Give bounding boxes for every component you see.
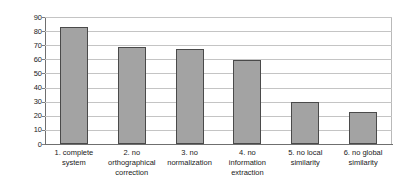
gridline: [45, 73, 392, 74]
y-axis-tick-mark: [42, 116, 45, 117]
y-axis-tick-label: 30: [22, 97, 42, 106]
gridline: [45, 59, 392, 60]
x-axis-category-label-line: 4. no: [216, 148, 280, 158]
x-axis-category-label: 3. nonormalization: [158, 148, 222, 168]
y-axis-tick-mark: [42, 59, 45, 60]
x-axis-category-label: 4. noinformationextraction: [216, 148, 280, 178]
gridline: [45, 102, 392, 103]
x-axis-category-label-line: 2. no: [100, 148, 164, 158]
x-axis-category-label-line: 5. no local: [273, 148, 337, 158]
y-axis-tick-label: 10: [22, 125, 42, 134]
x-axis-category-label-line: correction: [100, 168, 164, 178]
x-axis-category-label-line: normalization: [158, 158, 222, 168]
y-axis-tick-mark: [42, 73, 45, 74]
x-axis-category-label-line: orthographical: [100, 158, 164, 168]
gridline: [45, 17, 392, 18]
y-axis-tick-label: 0: [22, 140, 42, 149]
y-axis-tick-labels: 9080706050403020100: [22, 0, 42, 192]
y-axis-title: Correct (%): [0, 0, 14, 45]
x-axis-category-label-line: extraction: [216, 168, 280, 178]
x-axis-category-label-line: similarity: [331, 158, 395, 168]
bar: [176, 49, 204, 144]
gridline: [45, 130, 392, 131]
y-axis-tick-label: 40: [22, 83, 42, 92]
y-axis-tick-label: 80: [22, 27, 42, 36]
y-axis-tick-mark: [42, 17, 45, 18]
y-axis-tick-label: 60: [22, 55, 42, 64]
bar: [60, 27, 88, 144]
gridline: [45, 88, 392, 89]
y-axis-tick-label: 50: [22, 69, 42, 78]
y-axis-tick-mark: [42, 130, 45, 131]
x-axis-category-label: 5. no localsimilarity: [273, 148, 337, 168]
y-axis-tick-mark: [42, 102, 45, 103]
gridline: [45, 116, 392, 117]
bar: [233, 60, 261, 144]
x-axis-category-label-line: information: [216, 158, 280, 168]
x-axis-category-label: 2. noorthographicalcorrection: [100, 148, 164, 178]
bar: [118, 47, 146, 144]
y-axis-tick-label: 20: [22, 111, 42, 120]
bar: [291, 102, 319, 144]
x-axis-category-label-line: system: [42, 158, 106, 168]
x-axis-line: [45, 144, 393, 145]
bar: [349, 112, 377, 144]
y-axis-tick-mark: [42, 45, 45, 46]
x-axis-category-label-line: 6. no global: [331, 148, 395, 158]
x-axis-category-label-line: similarity: [273, 158, 337, 168]
y-axis-tick-mark: [42, 31, 45, 32]
y-axis-tick-mark: [42, 88, 45, 89]
y-axis-tick-label: 90: [22, 13, 42, 22]
x-axis-category-label: 6. no globalsimilarity: [331, 148, 395, 168]
y-axis-tick-label: 70: [22, 41, 42, 50]
plot-area: [45, 17, 392, 144]
x-axis-category-label-line: 3. no: [158, 148, 222, 158]
x-axis-category-labels: 1. completesystem2. noorthographicalcorr…: [45, 148, 392, 192]
x-axis-category-label: 1. completesystem: [42, 148, 106, 168]
bar-chart: Correct (%) 9080706050403020100 1. compl…: [0, 0, 404, 192]
x-axis-category-label-line: 1. complete: [42, 148, 106, 158]
y-axis-tick-mark: [42, 144, 45, 145]
gridline: [45, 45, 392, 46]
gridline: [45, 31, 392, 32]
